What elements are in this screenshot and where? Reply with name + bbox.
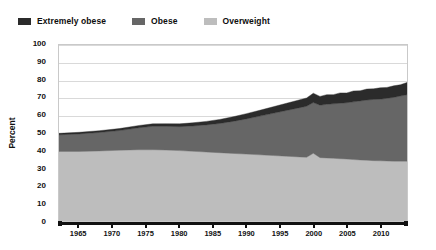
x-tick-mark xyxy=(111,225,113,228)
y-tick-label: 90 xyxy=(37,58,46,66)
legend-label-obese: Obese xyxy=(151,17,178,26)
x-tick-label: 1965 xyxy=(70,230,87,238)
chart-legend: Extremely obese Obese Overweight xyxy=(18,15,296,27)
x-tick-label: 2000 xyxy=(305,230,322,238)
x-tick-label: 2010 xyxy=(373,230,390,238)
y-tick-label: 0 xyxy=(42,218,46,226)
x-tick-label: 1985 xyxy=(204,230,221,238)
y-tick-label: 30 xyxy=(37,165,46,173)
x-tick-label: 1970 xyxy=(104,230,121,238)
x-tick-mark xyxy=(245,225,247,228)
stacked-area-series xyxy=(59,45,407,221)
area-band-overweight xyxy=(59,150,407,221)
legend-item-obese[interactable]: Obese xyxy=(132,17,178,26)
y-tick-label: 20 xyxy=(37,182,46,190)
legend-label-extremely-obese: Extremely obese xyxy=(37,17,106,26)
y-axis: 0102030405060708090100 xyxy=(0,44,58,222)
y-tick-label: 10 xyxy=(37,200,46,208)
legend-item-extremely-obese[interactable]: Extremely obese xyxy=(18,17,106,26)
x-tick-mark xyxy=(380,225,382,228)
x-tick-mark xyxy=(145,225,147,228)
x-tick-label: 1980 xyxy=(171,230,188,238)
area-chart: Extremely obese Obese Overweight Percent… xyxy=(0,0,436,250)
legend-label-overweight: Overweight xyxy=(223,17,270,26)
x-tick-mark xyxy=(346,225,348,228)
y-tick-label: 80 xyxy=(37,76,46,84)
legend-item-overweight[interactable]: Overweight xyxy=(204,17,270,26)
x-tick-mark xyxy=(178,225,180,228)
x-tick-mark xyxy=(212,225,214,228)
y-tick-label: 40 xyxy=(37,147,46,155)
x-tick-label: 2005 xyxy=(339,230,356,238)
y-tick-label: 60 xyxy=(37,111,46,119)
y-tick-label: 50 xyxy=(37,129,46,137)
legend-swatch-extremely-obese xyxy=(18,18,31,25)
x-axis-endcap xyxy=(58,221,62,226)
legend-swatch-overweight xyxy=(204,18,217,25)
y-tick-label: 70 xyxy=(37,93,46,101)
x-tick-mark xyxy=(313,225,315,228)
legend-swatch-obese xyxy=(132,18,145,25)
plot-area xyxy=(58,44,408,222)
y-tick-label: 100 xyxy=(33,40,46,48)
x-axis: 1965197019751980198519901995200020052010 xyxy=(58,222,408,246)
x-tick-label: 1995 xyxy=(272,230,289,238)
x-tick-label: 1975 xyxy=(137,230,154,238)
x-axis-endcap xyxy=(404,221,408,226)
x-tick-mark xyxy=(77,225,79,228)
x-tick-label: 1990 xyxy=(238,230,255,238)
x-tick-mark xyxy=(279,225,281,228)
